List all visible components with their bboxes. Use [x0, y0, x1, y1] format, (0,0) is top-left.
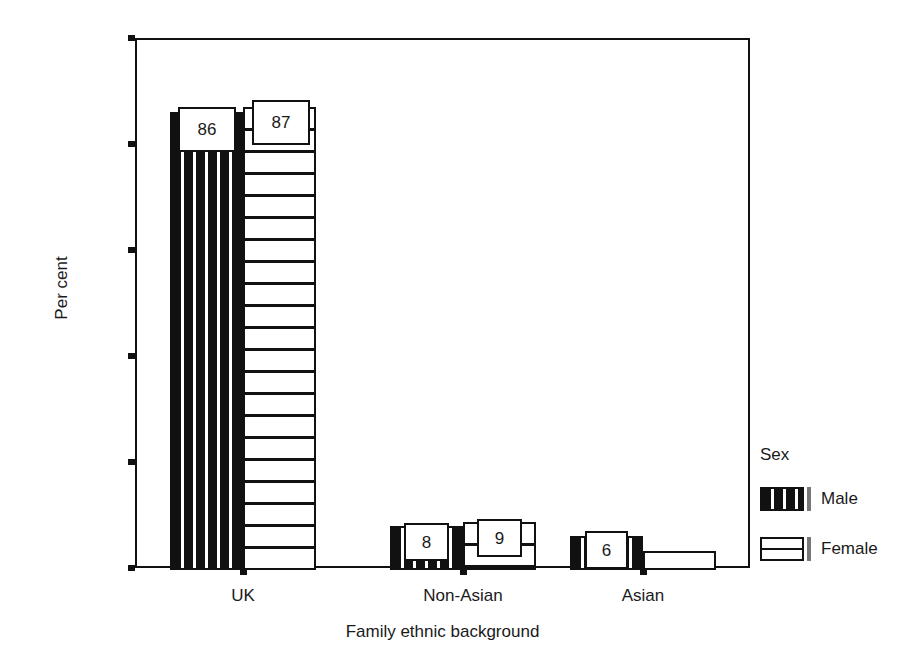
bar-uk-female — [243, 107, 316, 570]
legend-divider — [807, 487, 811, 511]
legend-divider — [807, 537, 811, 561]
legend-title: Sex — [760, 445, 910, 465]
x-tick-mark — [640, 568, 647, 575]
y-axis-title: Per cent — [52, 218, 72, 358]
y-tick-mark — [128, 353, 135, 359]
bar-chart: Per cent 100 80 60 40 20 0 86 87 8 9 6 — [0, 0, 915, 656]
bar-value-uk-female: 87 — [252, 100, 310, 145]
bar-value-nonasian-female: 9 — [477, 519, 522, 557]
legend-label-male: Male — [821, 489, 858, 509]
bar-value-uk-male: 86 — [178, 107, 236, 152]
y-tick-mark — [128, 35, 135, 41]
bar-value-asian-male: 6 — [585, 531, 628, 569]
legend-item-female: Female — [760, 537, 910, 561]
x-tick-mark — [460, 568, 467, 575]
bar-value-nonasian-male: 8 — [404, 523, 449, 561]
y-tick-mark — [128, 565, 135, 571]
y-tick-mark — [128, 459, 135, 465]
legend-item-male: Male — [760, 487, 910, 511]
bar-asian-female — [643, 551, 716, 570]
legend-swatch-male-icon — [760, 487, 804, 511]
y-tick-mark — [128, 141, 135, 147]
x-tick-label: Asian — [622, 586, 665, 606]
x-tick-mark — [240, 568, 247, 575]
legend-swatch-female-icon — [760, 537, 804, 561]
legend-label-female: Female — [821, 539, 878, 559]
x-tick-label: UK — [231, 586, 255, 606]
legend: Sex Male Female — [760, 445, 910, 587]
y-tick-mark — [128, 247, 135, 253]
x-tick-label: Non-Asian — [423, 586, 502, 606]
x-axis-title: Family ethnic background — [135, 622, 750, 642]
bar-uk-male — [170, 112, 243, 570]
